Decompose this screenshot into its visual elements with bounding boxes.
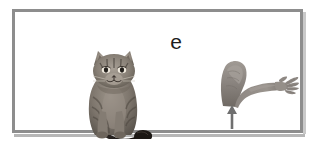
frame-shadow-bottom (14, 134, 305, 137)
panel-frame: e (12, 9, 303, 133)
upward-arrow-icon (224, 105, 240, 129)
panel-letter-label: e (165, 31, 187, 52)
figure-panel: e (0, 0, 313, 145)
frame-shadow-right (303, 12, 306, 134)
flexed-arm-photo (215, 58, 299, 110)
sitting-cat-photo (73, 49, 155, 139)
